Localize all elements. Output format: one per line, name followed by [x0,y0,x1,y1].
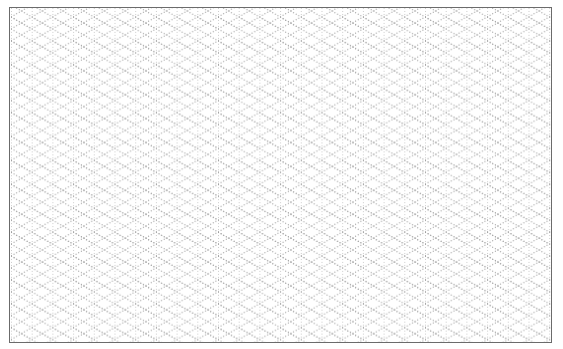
isometric-grid-frame [9,7,552,343]
isometric-grid [10,8,551,342]
grid-fill [10,8,551,342]
